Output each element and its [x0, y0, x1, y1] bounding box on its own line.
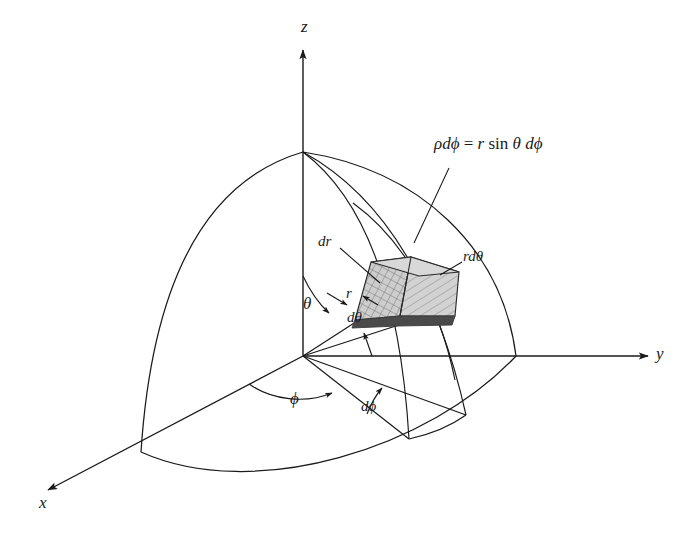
equation-sin: sin — [488, 134, 508, 153]
r-arrow — [327, 293, 347, 305]
dtheta-arrow-lower — [364, 333, 372, 356]
x-axis-label: x — [39, 494, 47, 511]
equation-equals: = — [459, 134, 477, 153]
r-label: r — [346, 286, 352, 301]
rho-dphi-equation: ρdϕ = r sin θ dϕ — [434, 135, 542, 152]
rdtheta-label: rdθ — [463, 249, 483, 264]
diagram-canvas — [0, 0, 683, 535]
theta-label: θ — [303, 295, 311, 312]
equation-theta: θ — [513, 134, 521, 153]
sphere-left-meridian — [141, 152, 303, 452]
equation-dphi: dϕ — [525, 134, 542, 153]
spherical-coordinates-figure: z y x θ ϕ r dθ dϕ dr rdθ ρdϕ = r sin θ d… — [0, 0, 683, 535]
phi-label: ϕ — [290, 390, 299, 407]
dr-label: dr — [318, 234, 331, 249]
equation-lhs: ρdϕ — [434, 134, 459, 153]
sphere-equator-arc — [141, 356, 516, 471]
z-axis-label: z — [301, 18, 308, 35]
dphi-label: dϕ — [361, 399, 376, 414]
sphere-outline — [141, 152, 516, 471]
volume-element — [352, 257, 459, 328]
x-axis-line — [48, 356, 303, 490]
rho-dphi-leader-line — [414, 168, 449, 243]
axes-group — [48, 50, 648, 490]
phi-ray-far — [303, 356, 466, 415]
phi-rays — [303, 356, 466, 439]
y-axis-label: y — [656, 345, 664, 362]
r-length-indicator — [327, 293, 347, 305]
dtheta-label: dθ — [347, 310, 362, 325]
